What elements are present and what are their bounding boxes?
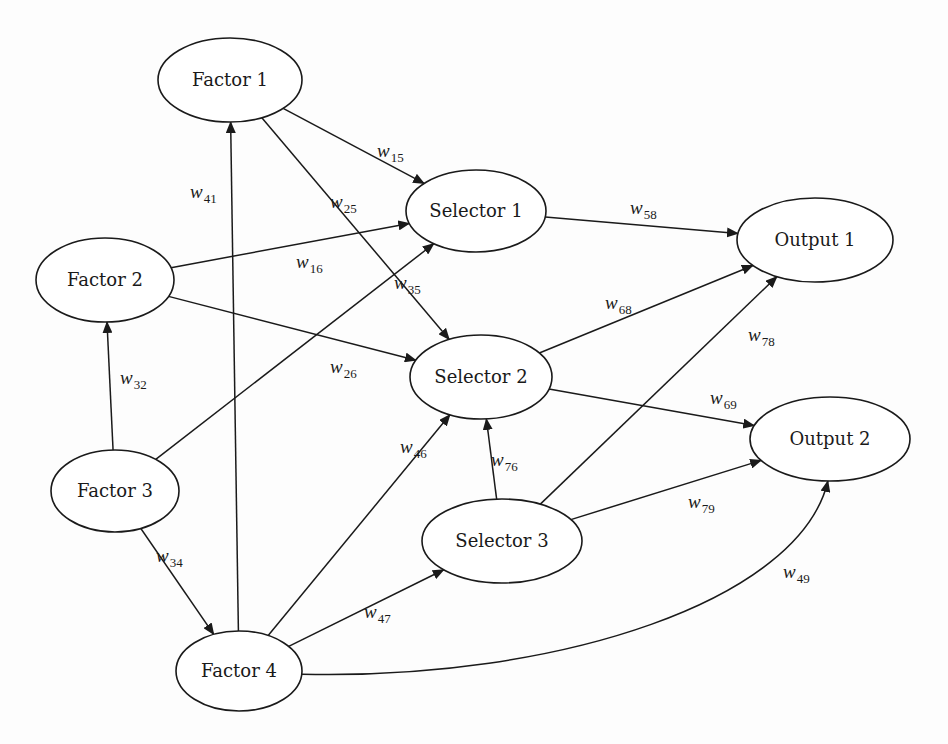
edge-s3-to-o1 (540, 277, 777, 504)
weight-subscript: 78 (762, 334, 775, 349)
edge-f2-to-s2 (169, 296, 416, 360)
weight-subscript: 49 (797, 571, 810, 586)
weight-subscript: 41 (204, 191, 217, 206)
weight-label-w41: w41 (190, 181, 217, 206)
edge-s3-to-o2 (571, 460, 761, 519)
node-factor-4: Factor 4 (176, 631, 302, 711)
weight-symbol: w (605, 292, 618, 313)
edge-f2-to-s1 (171, 223, 409, 267)
weight-symbol: w (377, 140, 390, 161)
weight-symbol: w (156, 545, 169, 566)
node-label: Factor 4 (201, 660, 277, 681)
weight-symbol: w (296, 251, 309, 272)
weight-label-w79: w79 (688, 491, 715, 516)
weight-symbol: w (330, 191, 343, 212)
node-output-2: Output 2 (750, 397, 910, 481)
weight-symbol: w (491, 449, 504, 470)
weight-symbol: w (710, 387, 723, 408)
edge-s1-to-o1 (545, 217, 738, 233)
node-label: Output 1 (774, 229, 855, 250)
node-selector-3: Selector 3 (422, 499, 582, 583)
node-label: Output 2 (789, 428, 870, 449)
weight-subscript: 69 (724, 397, 737, 412)
node-output-1: Output 1 (737, 198, 893, 282)
node-label: Selector 1 (429, 200, 522, 221)
edge-f1-to-s1 (283, 108, 424, 183)
weight-label-w69: w69 (710, 387, 737, 412)
weight-symbol: w (630, 197, 643, 218)
weight-subscript: 26 (344, 366, 358, 381)
network-diagram: Factor 1Factor 2Factor 3Factor 4Selector… (0, 0, 948, 744)
weight-subscript: 15 (391, 150, 404, 165)
weight-label-w58: w58 (630, 197, 657, 222)
weight-label-w49: w49 (783, 561, 810, 586)
node-factor-2: Factor 2 (36, 238, 174, 322)
weight-label-w78: w78 (748, 324, 775, 349)
weight-symbol: w (400, 436, 413, 457)
edge-f3-to-f2 (107, 322, 113, 450)
weight-label-w34: w34 (156, 545, 183, 570)
edge-f4-to-f1 (231, 122, 239, 631)
weight-label-w46: w46 (400, 436, 427, 461)
node-label: Selector 2 (434, 366, 527, 387)
weight-symbol: w (120, 367, 133, 388)
weight-subscript: 35 (408, 282, 421, 297)
weight-symbol: w (330, 356, 343, 377)
weight-label-w25: w25 (330, 191, 357, 216)
weight-subscript: 76 (505, 459, 519, 474)
node-factor-3: Factor 3 (51, 450, 179, 532)
weight-symbol: w (688, 491, 701, 512)
weight-label-w68: w68 (605, 292, 632, 317)
weight-label-w26: w26 (330, 356, 357, 381)
weight-symbol: w (364, 601, 377, 622)
nodes-layer: Factor 1Factor 2Factor 3Factor 4Selector… (36, 38, 910, 711)
node-label: Selector 3 (455, 530, 548, 551)
weight-subscript: 46 (414, 446, 428, 461)
edge-f4-to-o2 (302, 481, 828, 674)
weight-subscript: 68 (619, 302, 632, 317)
edge-f3-to-f4 (141, 529, 214, 635)
weight-symbol: w (190, 181, 203, 202)
weight-subscript: 34 (170, 555, 184, 570)
weight-subscript: 58 (644, 207, 657, 222)
weight-label-w35: w35 (394, 272, 421, 297)
weight-subscript: 32 (134, 377, 147, 392)
node-selector-2: Selector 2 (410, 335, 552, 419)
node-label: Factor 3 (77, 480, 153, 501)
edge-f3-to-s1 (156, 244, 434, 460)
node-label: Factor 1 (192, 69, 268, 90)
weight-label-w16: w16 (296, 251, 323, 276)
weight-subscript: 25 (344, 201, 357, 216)
diagram-svg: Factor 1Factor 2Factor 3Factor 4Selector… (0, 0, 948, 744)
node-label: Factor 2 (67, 269, 143, 290)
weight-subscript: 47 (378, 611, 392, 626)
weight-symbol: w (748, 324, 761, 345)
weight-subscript: 16 (310, 261, 324, 276)
weight-label-w47: w47 (364, 601, 391, 626)
weight-symbol: w (783, 561, 796, 582)
weight-label-w32: w32 (120, 367, 147, 392)
weight-symbol: w (394, 272, 407, 293)
weight-subscript: 79 (702, 501, 715, 516)
weight-label-w76: w76 (491, 449, 518, 474)
node-selector-1: Selector 1 (406, 170, 546, 252)
node-factor-1: Factor 1 (158, 38, 302, 122)
edge-s2-to-o1 (539, 265, 753, 353)
